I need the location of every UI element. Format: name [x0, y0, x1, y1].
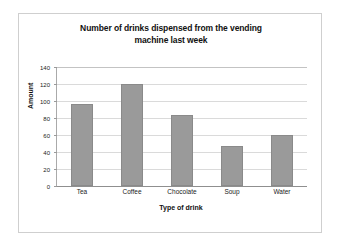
y-axis-tick-label: 100	[40, 99, 50, 105]
x-axis-label-chocolate: Chocolate	[157, 188, 207, 195]
chart-frame: Number of drinks dispensed from the vend…	[18, 13, 322, 233]
plot-area: 020406080100120140TeaCoffeeChocolateSoup…	[56, 67, 307, 187]
bar-chocolate[interactable]	[171, 115, 193, 186]
y-axis-tick-label: 0	[47, 184, 50, 190]
y-axis-tick-label: 20	[43, 167, 50, 173]
bar-slot	[107, 67, 157, 186]
y-axis-tick-label: 140	[40, 65, 50, 71]
bar-slot	[207, 67, 257, 186]
y-axis-tick-label: 60	[43, 133, 50, 139]
y-axis-tick-label: 120	[40, 82, 50, 88]
y-axis-tick-label: 40	[43, 150, 50, 156]
bar-slot	[57, 67, 107, 186]
bar-tea[interactable]	[71, 104, 93, 186]
bar-soup[interactable]	[221, 146, 243, 186]
x-axis-label-coffee: Coffee	[107, 188, 157, 195]
bar-coffee[interactable]	[121, 84, 143, 186]
x-axis-title: Type of drink	[56, 204, 306, 211]
y-axis-tick-label: 80	[43, 116, 50, 122]
chart-title-line-1: Number of drinks dispensed from the vend…	[33, 23, 309, 35]
chart-title-line-2: machine last week	[33, 35, 309, 47]
x-axis-label-water: Water	[257, 188, 307, 195]
bar-slot	[257, 67, 307, 186]
bar-slot	[157, 67, 207, 186]
bar-water[interactable]	[271, 135, 293, 186]
y-axis-tick-0: 0	[54, 186, 57, 187]
chart-title: Number of drinks dispensed from the vend…	[33, 23, 309, 46]
x-axis-label-tea: Tea	[57, 188, 107, 195]
x-axis-label-soup: Soup	[207, 188, 257, 195]
chart-screenshot: Number of drinks dispensed from the vend…	[0, 0, 339, 246]
y-axis-title: Amount	[27, 83, 34, 109]
